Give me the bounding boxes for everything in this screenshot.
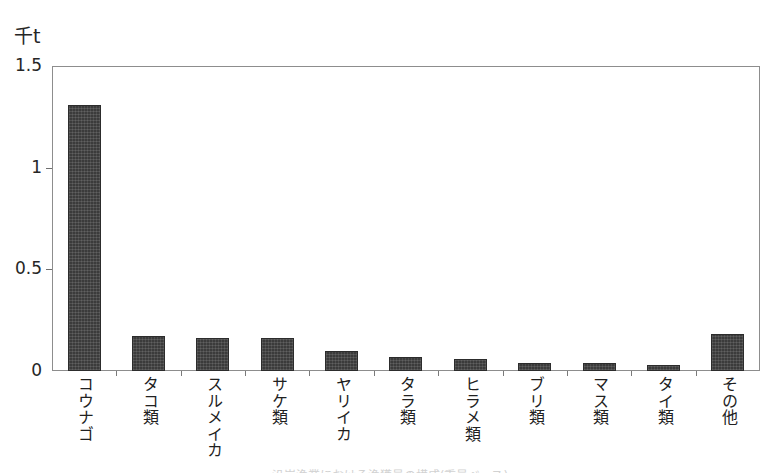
x-axis-category-label: タラ類 xyxy=(374,376,438,430)
x-axis-category-label: ブリ類 xyxy=(503,376,567,430)
bar xyxy=(454,359,487,371)
bar xyxy=(68,105,101,371)
bar-slot xyxy=(567,66,631,371)
x-axis-category-text: スルメイカ xyxy=(205,376,222,459)
x-axis-category-text: タコ類 xyxy=(140,376,157,426)
x-axis-category-label: ヒラメ類 xyxy=(438,376,502,446)
y-axis-tick-label: 1 xyxy=(31,157,42,177)
x-axis-category-label: その他 xyxy=(696,376,760,430)
bar-chart: 千t 00.511.5 コウナゴタコ類スルメイカサケ類ヤリイカタラ類ヒラメ類ブリ… xyxy=(0,0,780,473)
x-axis-category-text: タイ類 xyxy=(655,376,672,426)
y-axis-tick-label: 0.5 xyxy=(15,258,42,278)
x-axis-category-text: ヤリイカ xyxy=(333,376,350,442)
bar xyxy=(647,365,680,371)
x-axis-category-text: ヒラメ類 xyxy=(462,376,479,442)
bar-slot xyxy=(438,66,502,371)
x-axis-category-text: その他 xyxy=(719,376,736,426)
x-axis-category-label: スルメイカ xyxy=(181,376,245,463)
x-axis-category-text: タラ類 xyxy=(398,376,415,426)
bar-slot xyxy=(181,66,245,371)
x-axis-category-label: タイ類 xyxy=(631,376,695,430)
bar xyxy=(325,351,358,371)
y-axis-tick: 0 xyxy=(0,371,52,372)
x-axis-category-label: マス類 xyxy=(567,376,631,430)
x-axis-category-text: コウナゴ xyxy=(76,376,93,442)
x-axis-category-text: マス類 xyxy=(591,376,608,426)
bar-slot xyxy=(116,66,180,371)
x-axis-category-label: ヤリイカ xyxy=(309,376,373,446)
x-axis-category-label: タコ類 xyxy=(116,376,180,430)
bars-layer xyxy=(52,66,760,371)
y-axis-unit-label: 千t xyxy=(14,21,40,48)
x-axis-category-label: サケ類 xyxy=(245,376,309,430)
x-axis-category-text: サケ類 xyxy=(269,376,286,426)
bar xyxy=(196,338,229,371)
bar-slot xyxy=(631,66,695,371)
bar xyxy=(132,336,165,371)
bar-slot xyxy=(696,66,760,371)
bar-slot xyxy=(374,66,438,371)
y-axis-tick: 1.5 xyxy=(0,66,52,67)
y-axis-tick-label: 1.5 xyxy=(15,55,42,75)
y-axis-tick-mark xyxy=(46,371,52,372)
bar-slot xyxy=(52,66,116,371)
scan-bottom-caption: 沿岸漁業における漁獲量の構成(重量ベース) xyxy=(0,466,780,473)
bar-slot xyxy=(309,66,373,371)
bar xyxy=(711,334,744,371)
y-axis-tick: 0.5 xyxy=(0,269,52,270)
bar xyxy=(261,338,294,371)
bar-slot xyxy=(245,66,309,371)
y-axis-tick-label: 0 xyxy=(31,360,42,380)
x-axis-labels: コウナゴタコ類スルメイカサケ類ヤリイカタラ類ヒラメ類ブリ類マス類タイ類その他 xyxy=(52,376,760,471)
x-axis-category-label: コウナゴ xyxy=(52,376,116,446)
x-axis-category-text: ブリ類 xyxy=(526,376,543,426)
bar xyxy=(389,357,422,371)
bar xyxy=(583,363,616,371)
bar xyxy=(518,363,551,371)
y-axis-tick: 1 xyxy=(0,168,52,169)
bar-slot xyxy=(503,66,567,371)
